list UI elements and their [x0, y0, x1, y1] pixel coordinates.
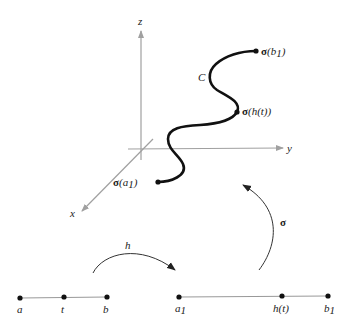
reparametrization-diagram: z y x C σ(a1) σ(h(t)) σ(b1) h σ a [0, 0, 350, 329]
z-axis-label: z [137, 15, 143, 27]
label-t: t [61, 303, 65, 315]
range-segment [179, 296, 328, 297]
map-h: h [93, 239, 175, 273]
point-b1 [325, 293, 330, 298]
label-b: b [103, 303, 109, 315]
point-a1 [176, 294, 181, 299]
x-axis [82, 139, 153, 211]
point-a [17, 295, 22, 300]
label-sigma-b1: σ(b1) [261, 45, 286, 59]
label-a1: a1 [175, 302, 186, 316]
h-label: h [125, 239, 131, 251]
point-sigma-h-t [234, 109, 239, 114]
point-t [61, 294, 66, 299]
domain-interval: a t b [17, 294, 110, 315]
label-a: a [17, 303, 23, 315]
point-h-t [279, 293, 284, 298]
sigma-arrow [243, 185, 273, 270]
coordinate-axes: z y x [69, 15, 292, 219]
y-axis [128, 148, 283, 149]
curve-label-c: C [198, 71, 206, 83]
curve-c: C σ(a1) σ(h(t)) σ(b1) [113, 45, 286, 190]
point-sigma-a1 [155, 179, 160, 184]
x-axis-label: x [69, 207, 75, 219]
range-interval: a1 h(t) b1 [175, 293, 335, 316]
h-arrow [93, 254, 175, 273]
label-sigma-a1: σ(a1) [113, 176, 138, 190]
point-b [104, 294, 109, 299]
map-sigma: σ [243, 185, 286, 270]
sigma-label: σ [280, 216, 286, 228]
label-sigma-h-t: σ(h(t)) [242, 105, 272, 118]
point-sigma-b1 [253, 48, 258, 53]
label-b1: b1 [324, 302, 335, 316]
label-h-t: h(t) [273, 302, 289, 315]
y-axis-label: y [286, 142, 292, 154]
